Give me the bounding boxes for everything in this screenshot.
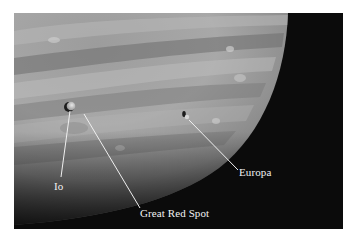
io-label: Io (54, 181, 63, 192)
jupiter-image (14, 13, 343, 229)
great-red-spot-label: Great Red Spot (140, 208, 209, 219)
europa-label: Europa (239, 167, 271, 178)
jupiter-photo: Io Great Red Spot Europa (14, 13, 343, 229)
